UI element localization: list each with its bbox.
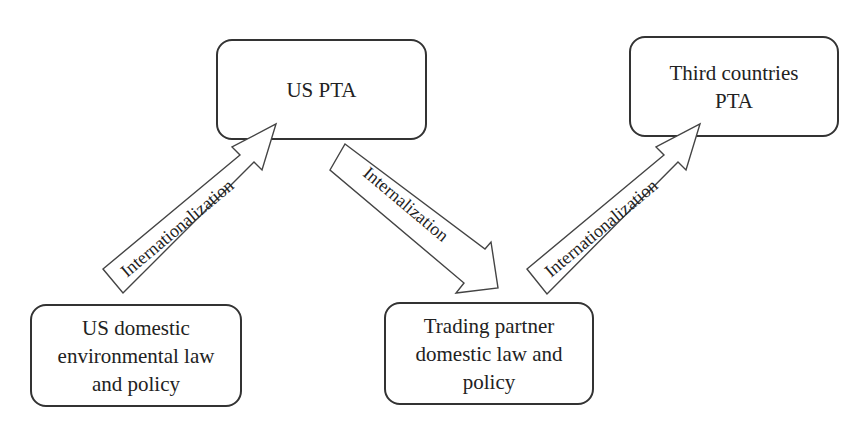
internationalization-arrow-2: Internationalization [527,124,700,294]
internationalization-arrow-1: Internationalization [103,124,276,293]
arrow-1-label: Internationalization [117,175,238,281]
arrows-layer: Internationalization Internalization Int… [0,0,862,434]
internalization-arrow: Internalization [330,144,498,293]
arrow-3-label: Internationalization [541,175,662,281]
